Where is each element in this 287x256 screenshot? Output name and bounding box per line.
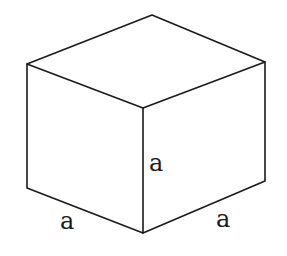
bottom-right-edge-label: a [216,205,230,233]
cube-diagram: a a a [0,0,287,256]
right-face-outline [143,62,265,233]
bottom-left-edge-label: a [60,207,74,235]
left-face-outline [27,64,143,233]
top-face [27,15,265,108]
cube-edges [27,15,265,233]
vertical-edge-label: a [149,149,163,177]
